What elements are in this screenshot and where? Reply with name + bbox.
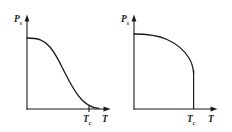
chart-panel-first-order: Ps Tc T (116, 0, 232, 132)
chart-panel-second-order: Ps Tc T (0, 0, 116, 132)
x-axis-arrow-icon (211, 107, 218, 112)
x-axis-label: T (102, 114, 109, 124)
tc-label: Tc (83, 114, 92, 126)
y-axis-label-subscript: s (126, 20, 130, 26)
tc-label-subscript: c (193, 120, 196, 126)
tc-label: Tc (187, 114, 196, 126)
y-axis-arrow-icon (25, 15, 30, 22)
polarization-curve (134, 34, 194, 73)
figure-two-phase-transition-plots: Ps Tc T Ps Tc T (0, 0, 232, 132)
polarization-curve (27, 38, 99, 108)
y-axis-label: Ps (14, 14, 23, 26)
y-axis-label: Ps (121, 14, 130, 26)
x-axis-label: T (208, 114, 215, 124)
x-axis-arrow-icon (104, 107, 111, 112)
y-axis-label-subscript: s (19, 20, 23, 26)
tc-label-subscript: c (89, 120, 92, 126)
y-axis-arrow-icon (132, 15, 137, 22)
